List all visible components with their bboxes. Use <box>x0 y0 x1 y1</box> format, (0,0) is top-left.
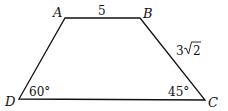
angle-c-label: 45° <box>168 85 189 99</box>
vertex-label-b: B <box>142 6 153 21</box>
vertex-label-d: D <box>4 94 16 109</box>
side-bc-radicand: 2 <box>193 44 201 58</box>
side-bc-length: 3 2 <box>176 42 201 58</box>
trapezoid-diagram: A B C D 5 3 2 60° 45° <box>0 0 228 111</box>
side-bc-coefficient: 3 <box>176 44 184 58</box>
vertex-label-a: A <box>52 5 62 20</box>
angle-d-label: 60° <box>29 85 50 99</box>
vertex-label-c: C <box>208 95 218 110</box>
side-ab-length: 5 <box>98 4 106 18</box>
